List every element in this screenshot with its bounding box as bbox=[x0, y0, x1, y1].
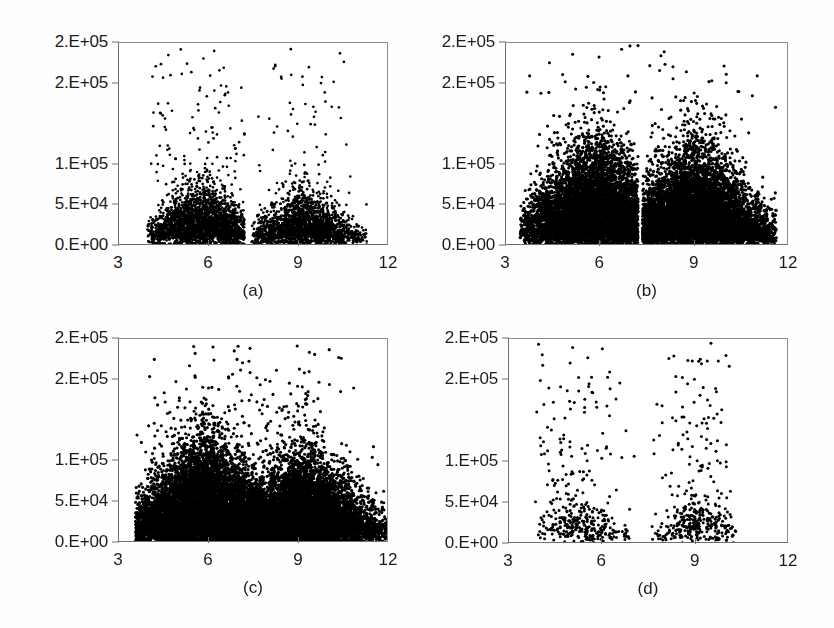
x-axis-tick-mark bbox=[695, 538, 696, 544]
y-axis-tick-mark bbox=[502, 502, 509, 503]
x-axis-tick-label: 6 bbox=[597, 551, 606, 571]
panel-caption-d: (d) bbox=[508, 579, 788, 599]
scatter-points-d bbox=[509, 339, 788, 543]
scatter-figure: 0.E+005.E+041.E+052.E+052.E+0536912(a)0.… bbox=[0, 0, 834, 628]
y-axis-tick-label: 2.E+05 bbox=[0, 328, 498, 348]
x-axis-tick-label: 9 bbox=[690, 551, 699, 571]
x-axis-tick-mark bbox=[601, 538, 602, 544]
x-axis-tick-label: 12 bbox=[779, 551, 798, 571]
y-axis-tick-label: 5.E+04 bbox=[0, 492, 498, 512]
scatter-panel-d: 0.E+005.E+041.E+052.E+052.E+0536912(d) bbox=[0, 0, 834, 628]
y-axis-tick-label: 0.E+00 bbox=[0, 533, 498, 553]
y-axis-tick-label: 1.E+05 bbox=[0, 451, 498, 471]
y-axis-tick-mark bbox=[502, 543, 509, 544]
y-axis-tick-mark bbox=[502, 461, 509, 462]
y-axis-tick-mark bbox=[502, 338, 509, 339]
y-axis-tick-label: 2.E+05 bbox=[0, 369, 498, 389]
x-axis-tick-label: 3 bbox=[503, 551, 512, 571]
plot-frame-d bbox=[508, 338, 788, 543]
y-axis-tick-mark bbox=[502, 379, 509, 380]
